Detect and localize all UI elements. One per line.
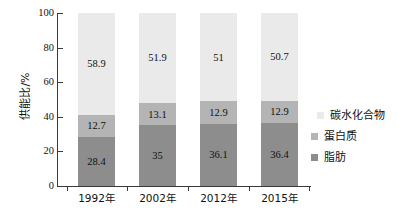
legend-item-carbohydrate[interactable]: 碳水化合物: [317, 105, 385, 126]
legend-label-fat: 脂肪: [324, 152, 346, 164]
segment-fat[interactable]: 36.4: [261, 123, 298, 186]
segment-value-carbohydrate: 51.9: [148, 52, 166, 63]
x-axis-line: [57, 186, 311, 187]
y-axis-line: [57, 13, 58, 186]
legend-label-protein: 蛋白质: [324, 131, 357, 143]
segment-value-protein: 12.7: [87, 120, 105, 131]
segment-value-carbohydrate: 58.9: [87, 58, 105, 69]
legend: 碳水化合物 蛋白质 脂肪: [311, 105, 385, 168]
segment-carbohydrate[interactable]: 58.9: [78, 13, 115, 115]
bar-2002[interactable]: 51.9 13.1 35: [139, 13, 176, 186]
x-tick-1: [127, 187, 128, 191]
segment-protein[interactable]: 12.9: [261, 101, 298, 123]
y-tick-label-40: 40: [44, 112, 55, 122]
segment-value-fat: 36.1: [209, 149, 227, 160]
segment-protein[interactable]: 12.7: [78, 115, 115, 137]
segment-carbohydrate[interactable]: 51.9: [139, 13, 176, 103]
y-axis-title: 供能比/%: [16, 51, 32, 141]
legend-swatch-fat: [311, 154, 318, 161]
y-tick-0: [58, 186, 63, 187]
y-tick-60: [58, 82, 63, 83]
x-axis-label-2015: 2015年: [245, 192, 315, 204]
bar-1992[interactable]: 58.9 12.7 28.4: [78, 13, 115, 186]
segment-value-carbohydrate: 51: [213, 52, 224, 63]
y-tick-label-100: 100: [38, 8, 54, 18]
stacked-bar-chart: 供能比/% 100 80 60 40 20 0 58.9 12.7 28.4 1…: [0, 0, 397, 222]
segment-protein[interactable]: 13.1: [139, 103, 176, 126]
y-tick-20: [58, 151, 63, 152]
segment-value-fat: 28.4: [87, 156, 105, 167]
segment-fat[interactable]: 28.4: [78, 137, 115, 186]
x-tick-0: [67, 187, 68, 191]
segment-value-fat: 35: [152, 150, 163, 161]
y-tick-label-60: 60: [44, 77, 55, 87]
segment-carbohydrate[interactable]: 50.7: [261, 13, 298, 101]
legend-item-protein[interactable]: 蛋白质: [311, 126, 385, 147]
y-tick-label-80: 80: [44, 43, 55, 53]
legend-label-carbohydrate: 碳水化合物: [330, 110, 385, 122]
x-tick-4: [309, 187, 310, 191]
x-axis-label-2012: 2012年: [184, 192, 254, 204]
y-tick-40: [58, 117, 63, 118]
segment-value-protein: 12.9: [209, 107, 227, 118]
y-tick-80: [58, 48, 63, 49]
segment-carbohydrate[interactable]: 51: [200, 13, 237, 101]
y-tick-label-0: 0: [49, 181, 54, 191]
segment-value-protein: 12.9: [270, 106, 288, 117]
segment-value-protein: 13.1: [148, 109, 166, 120]
x-tick-2: [188, 187, 189, 191]
x-tick-3: [249, 187, 250, 191]
segment-value-carbohydrate: 50.7: [270, 51, 288, 62]
legend-swatch-carbohydrate: [317, 112, 324, 119]
x-axis-label-1992: 1992年: [62, 192, 132, 204]
segment-value-fat: 36.4: [270, 149, 288, 160]
y-tick-100: [58, 13, 63, 14]
legend-swatch-protein: [311, 133, 318, 140]
x-axis-label-2002: 2002年: [123, 192, 193, 204]
segment-protein[interactable]: 12.9: [200, 101, 237, 123]
segment-fat[interactable]: 35: [139, 125, 176, 186]
legend-item-fat[interactable]: 脂肪: [311, 147, 385, 168]
bar-2012[interactable]: 51 12.9 36.1: [200, 13, 237, 186]
bar-2015[interactable]: 50.7 12.9 36.4: [261, 13, 298, 186]
segment-fat[interactable]: 36.1: [200, 124, 237, 186]
y-tick-label-20: 20: [44, 146, 55, 156]
